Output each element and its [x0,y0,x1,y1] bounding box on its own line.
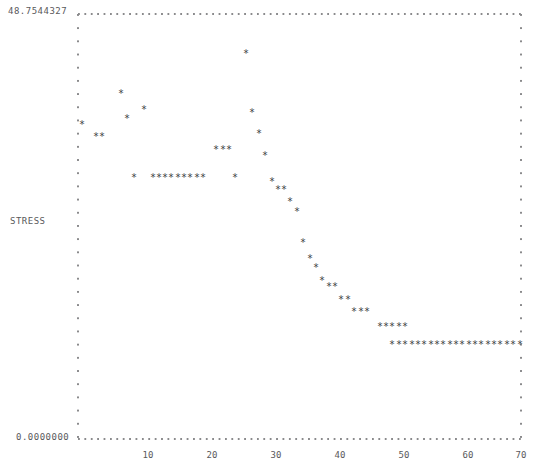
data-point: * [293,207,301,217]
data-point: * [299,238,307,248]
data-point: * [130,173,138,183]
data-point: * [242,49,250,59]
data-point: * [123,114,131,124]
data-point: * [312,263,320,273]
data-point: * [248,108,256,118]
data-point: * [78,120,86,130]
data-point: * [286,197,294,207]
data-point: * [516,340,524,350]
data-point: * [363,307,371,317]
data-point: * [344,295,352,305]
data-point: * [331,282,339,292]
data-point: * [261,151,269,161]
data-point: * [231,173,239,183]
stress-scatter-plot: 48.7544327 0.0000000 STRESS 102030405060… [0,0,534,473]
data-point: * [225,145,233,155]
data-point: * [98,132,106,142]
data-point: * [401,322,409,332]
data-point: * [255,129,263,139]
data-point: * [117,89,125,99]
scatter-marker-layer: ****************************************… [0,0,534,473]
data-point: * [140,105,148,115]
data-point: * [199,173,207,183]
data-point: * [280,185,288,195]
